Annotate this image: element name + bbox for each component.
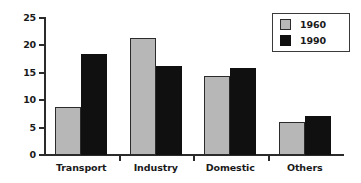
bar-domestic-1960 — [204, 76, 230, 155]
bar-others-1990 — [305, 116, 331, 155]
bar-transport-1990 — [81, 54, 107, 155]
bar-domestic-1990 — [230, 68, 256, 155]
chart-legend: 1960 1990 — [272, 13, 350, 52]
y-tick-label-5: 5 — [6, 122, 36, 133]
bar-industry-1990 — [156, 66, 182, 155]
legend-label-1990: 1990 — [300, 35, 326, 46]
legend-swatch-1960 — [280, 19, 291, 30]
y-tick-label-15: 15 — [6, 67, 36, 78]
y-tick-label-20: 20 — [6, 39, 36, 50]
bar-transport-1960 — [55, 107, 81, 155]
x-label-others: Others — [255, 162, 355, 173]
y-tick-label-10: 10 — [6, 94, 36, 105]
legend-entry-1990: 1990 — [280, 34, 326, 47]
bar-industry-1960 — [130, 38, 156, 155]
bar-others-1960 — [279, 122, 305, 155]
x-tick-3 — [268, 156, 270, 161]
x-tick-2 — [193, 156, 195, 161]
bar-chart: 0510152025 TransportIndustryDomesticOthe… — [0, 0, 361, 183]
x-tick-1 — [119, 156, 121, 161]
y-tick-label-0: 0 — [6, 149, 36, 160]
legend-label-1960: 1960 — [300, 19, 326, 30]
y-tick-label-25: 25 — [6, 12, 36, 23]
legend-entry-1960: 1960 — [280, 18, 326, 31]
legend-swatch-1990 — [280, 35, 291, 46]
